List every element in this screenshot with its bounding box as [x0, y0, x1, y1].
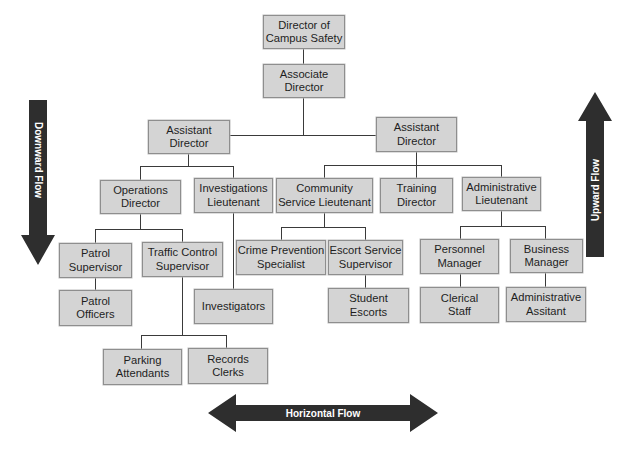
connector-line	[95, 229, 96, 243]
connector-line	[95, 277, 96, 290]
node-patrol-supervisor: Patrol Supervisor	[59, 243, 132, 278]
node-label: Administrative Lieutenant	[466, 181, 536, 208]
connector-line	[365, 274, 366, 288]
connector-line	[324, 213, 325, 227]
node-community-service-lieutenant: Community Service Lieutenant	[276, 178, 373, 213]
node-label: Patrol Supervisor	[69, 247, 122, 274]
connector-line	[140, 166, 234, 167]
node-label: Administrative Assitant	[511, 291, 581, 318]
node-investigations-lieutenant: Investigations Lieutenant	[194, 178, 273, 213]
upward-flow-arrow: Upward Flow	[578, 92, 612, 257]
connector-line	[281, 227, 282, 240]
node-administrative-lieutenant: Administrative Lieutenant	[462, 177, 541, 211]
downward-flow-arrow: Downward Flow	[21, 100, 55, 265]
node-parking-attendants: Parking Attendants	[103, 349, 182, 385]
node-business-manager: Business Manager	[510, 239, 583, 273]
node-records-clerks: Records Clerks	[188, 348, 268, 384]
node-escort-service-supervisor: Escort Service Supervisor	[328, 240, 403, 275]
node-operations-director: Operations Director	[100, 180, 181, 214]
connector-line	[460, 273, 461, 287]
node-label: Parking Attendants	[116, 354, 170, 381]
node-label: Director of Campus Safety	[266, 19, 342, 46]
node-label: Operations Director	[113, 184, 168, 211]
connector-line	[303, 98, 304, 135]
node-training-director: Training Director	[380, 178, 453, 213]
connector-line	[365, 227, 366, 240]
node-investigators: Investigators	[194, 289, 273, 324]
connector-line	[140, 214, 141, 229]
node-crime-prevention-specialist: Crime Prevention Specialist	[236, 240, 326, 275]
connector-line	[545, 272, 546, 287]
connector-line	[460, 226, 461, 239]
connector-line	[545, 226, 546, 239]
node-director-of-campus-safety: Director of Campus Safety	[263, 15, 345, 49]
node-patrol-officers: Patrol Officers	[59, 290, 132, 326]
node-label: Investigations Lieutenant	[199, 182, 267, 209]
node-label: Records Clerks	[207, 353, 249, 380]
node-label: Assistant Director	[166, 124, 211, 151]
node-traffic-control-supervisor: Traffic Control Supervisor	[142, 242, 223, 277]
node-label: Personnel Manager	[434, 243, 484, 270]
connector-line	[460, 226, 546, 227]
upward-flow-label: Upward Flow	[590, 159, 601, 221]
node-label: Patrol Officers	[76, 295, 114, 322]
connector-line	[233, 213, 234, 289]
node-administrative-assitant: Administrative Assitant	[506, 287, 586, 322]
node-label: Assistant Director	[394, 121, 439, 148]
node-label: Escort Service Supervisor	[329, 244, 401, 271]
connector-line	[229, 135, 376, 136]
node-label: Training Director	[396, 182, 436, 209]
connector-line	[141, 335, 142, 349]
node-label: Student Escorts	[349, 292, 388, 319]
connector-line	[140, 166, 141, 180]
connector-line	[141, 335, 227, 336]
connector-line	[501, 165, 502, 177]
connector-line	[324, 165, 501, 166]
connector-line	[281, 227, 366, 228]
node-label: Traffic Control Supervisor	[148, 246, 218, 273]
connector-line	[95, 229, 183, 230]
connector-line	[182, 229, 183, 242]
connector-line	[303, 48, 304, 64]
node-personnel-manager: Personnel Manager	[420, 239, 499, 274]
node-label: Clerical Staff	[441, 292, 478, 319]
connector-line	[233, 166, 234, 178]
org-chart: Director of Campus Safety Associate Dire…	[0, 0, 632, 452]
node-label: Associate Director	[280, 68, 329, 95]
node-clerical-staff: Clerical Staff	[420, 287, 499, 323]
connector-line	[501, 211, 502, 226]
horizontal-flow-label: Horizontal Flow	[286, 408, 360, 419]
connector-line	[324, 165, 325, 178]
node-label: Investigators	[202, 300, 265, 314]
connector-line	[182, 277, 183, 335]
downward-flow-label: Downward Flow	[33, 122, 44, 198]
connector-line	[188, 153, 189, 166]
node-assistant-director-left: Assistant Director	[148, 120, 230, 154]
horizontal-flow-arrow: Horizontal Flow	[208, 394, 438, 432]
node-student-escorts: Student Escorts	[328, 288, 409, 323]
node-label: Crime Prevention Specialist	[238, 244, 324, 271]
node-label: Business Manager	[524, 243, 569, 270]
node-associate-director: Associate Director	[263, 64, 345, 98]
connector-line	[226, 335, 227, 348]
node-assistant-director-right: Assistant Director	[376, 117, 457, 152]
node-label: Community Service Lieutenant	[278, 182, 371, 209]
